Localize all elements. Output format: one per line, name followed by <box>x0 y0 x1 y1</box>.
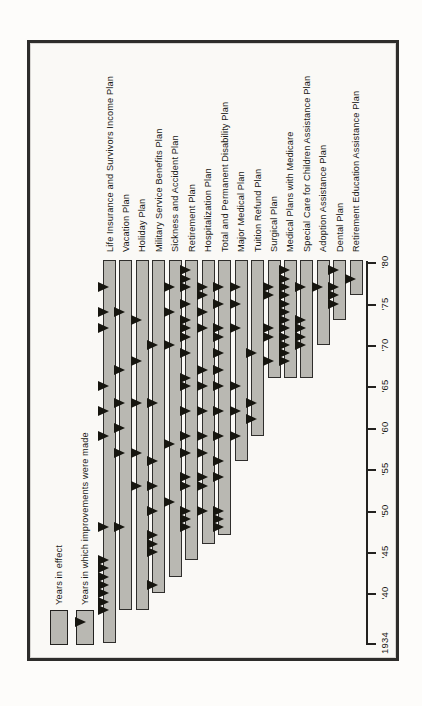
improvement-triangle-icon <box>180 348 191 358</box>
legend-swatch-years-in-effect <box>50 610 68 645</box>
improvement-triangle-icon <box>147 481 158 491</box>
improvement-triangle-icon <box>180 265 191 275</box>
plan-label: Dental Plan <box>335 203 346 252</box>
improvement-triangle-icon <box>98 282 109 292</box>
improvement-triangle-icon <box>147 456 158 466</box>
axis-tick <box>366 511 376 513</box>
improvement-triangle-icon <box>197 506 208 516</box>
improvement-triangle-icon <box>197 472 208 482</box>
improvement-triangle-icon <box>131 481 142 491</box>
improvement-triangle-icon <box>131 398 142 408</box>
plan-bar <box>136 260 149 610</box>
improvement-triangle-icon <box>197 406 208 416</box>
improvement-triangle-icon <box>147 506 158 516</box>
improvement-triangle-icon <box>295 282 306 292</box>
plan-label: Total and Permanent Disability Plan <box>220 102 231 252</box>
improvement-triangle-icon <box>246 348 257 358</box>
chart-frame: Life Insurance and Survivors Income Plan… <box>27 40 399 661</box>
improvement-triangle-icon <box>98 406 109 416</box>
legend-label-improvements: Years in which improvements were made <box>80 432 91 605</box>
improvement-triangle-icon <box>345 274 356 284</box>
improvement-triangle-icon <box>230 323 241 333</box>
improvement-triangle-icon <box>114 307 125 317</box>
improvement-triangle-icon <box>213 348 224 358</box>
improvement-triangle-icon <box>246 398 257 408</box>
improvement-triangle-icon <box>230 282 241 292</box>
improvement-triangle-icon <box>98 323 109 333</box>
improvement-triangle-icon <box>197 431 208 441</box>
plan-label: Retirement Plan <box>187 184 198 252</box>
improvement-triangle-icon <box>263 323 274 333</box>
improvement-triangle-icon <box>230 406 241 416</box>
plan-label: Sickness and Accident Plan <box>170 135 181 252</box>
improvement-triangle-icon <box>230 299 241 309</box>
improvement-triangle-icon <box>197 381 208 391</box>
improvement-triangle-icon <box>197 282 208 292</box>
improvement-triangle-icon <box>114 522 125 532</box>
axis-tick-label: '75 <box>379 297 390 310</box>
improvement-triangle-icon <box>230 381 241 391</box>
improvement-triangle-icon <box>312 282 323 292</box>
improvement-triangle-icon <box>246 414 257 424</box>
improvement-triangle-icon <box>147 530 158 540</box>
axis-tick-label: '55 <box>379 463 390 476</box>
legend-label-years-in-effect: Years in effect <box>54 545 65 605</box>
plan-label: Special Care for Children Assistance Pla… <box>302 76 313 252</box>
axis-tick <box>366 469 376 471</box>
plan-label: Hospitalization Plan <box>203 168 214 252</box>
improvement-triangle-icon <box>147 398 158 408</box>
improvement-triangle-icon <box>197 323 208 333</box>
improvement-triangle-icon <box>98 307 109 317</box>
improvement-triangle-icon <box>147 340 158 350</box>
improvement-triangle-icon <box>213 365 224 375</box>
improvement-triangle-icon <box>114 398 125 408</box>
improvement-triangle-icon <box>131 315 142 325</box>
improvement-triangle-icon <box>213 299 224 309</box>
axis-tick <box>366 262 376 264</box>
improvement-triangle-icon <box>164 282 175 292</box>
improvement-triangle-icon <box>180 406 191 416</box>
improvement-triangle-icon <box>147 580 158 590</box>
plan-label: Retirement Education Assistance Plan <box>351 91 362 252</box>
improvement-triangle-icon <box>213 431 224 441</box>
axis-tick-label: '65 <box>379 380 390 393</box>
improvement-triangle-icon <box>197 365 208 375</box>
improvement-triangle-icon <box>98 555 109 565</box>
improvement-triangle-icon <box>98 431 109 441</box>
improvement-triangle-icon <box>164 439 175 449</box>
improvement-triangle-icon <box>263 282 274 292</box>
improvement-triangle-icon <box>213 406 224 416</box>
improvement-triangle-icon <box>213 381 224 391</box>
axis-tick <box>366 552 376 554</box>
improvement-triangle-icon <box>328 265 339 275</box>
improvement-triangle-icon <box>180 315 191 325</box>
improvement-triangle-icon <box>98 522 109 532</box>
scanned-page: Life Insurance and Survivors Income Plan… <box>0 0 422 706</box>
plan-label: Tuition Refund Plan <box>253 169 264 252</box>
improvement-triangle-icon <box>180 431 191 441</box>
improvement-triangle-icon <box>230 431 241 441</box>
plan-label: Vacation Plan <box>121 194 132 252</box>
plan-label: Adoption Assistance Plan <box>318 145 329 252</box>
improvement-triangle-icon <box>197 307 208 317</box>
plan-label: Military Service Benefits Plan <box>154 129 165 252</box>
axis-tick-label: '80 <box>379 256 390 269</box>
legend-swatch-improvements <box>76 610 94 645</box>
improvement-triangle-icon <box>180 299 191 309</box>
improvement-triangle-icon <box>131 356 142 366</box>
axis-tick-label: 1934 <box>379 632 390 654</box>
improvement-triangle-icon <box>328 282 339 292</box>
plan-label: Life Insurance and Survivors Income Plan <box>105 76 116 252</box>
axis-tick <box>366 304 376 306</box>
improvement-triangle-icon <box>213 323 224 333</box>
improvement-triangle-icon <box>180 448 191 458</box>
axis-tick <box>366 593 376 595</box>
improvement-triangle-icon <box>131 448 142 458</box>
improvement-triangle-icon <box>263 356 274 366</box>
axis-tick <box>366 386 376 388</box>
improvement-triangle-icon <box>213 472 224 482</box>
improvement-triangle-icon <box>180 373 191 383</box>
axis-tick-label: '60 <box>379 421 390 434</box>
improvement-triangle-icon <box>180 506 191 516</box>
axis-tick-label: '70 <box>379 338 390 351</box>
